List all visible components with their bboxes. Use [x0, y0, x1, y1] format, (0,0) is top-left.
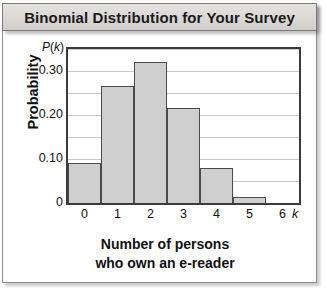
y-tick-label-0.10: 0.10	[30, 151, 63, 165]
y-tick-label-0: 0	[30, 195, 63, 209]
y-symbol-p: P	[42, 40, 50, 54]
bar-k-0	[68, 163, 101, 203]
bar-k-4	[200, 168, 233, 203]
x-axis-variable-label: k	[292, 207, 298, 221]
y-axis-symbol-label: P(k)	[33, 40, 64, 54]
x-tick-label-5: 5	[240, 207, 260, 221]
y-tick-label-0.20: 0.20	[30, 107, 63, 121]
x-tick-label-1: 1	[108, 207, 128, 221]
x-tick-label-4: 4	[207, 207, 227, 221]
y-symbol-paren-close: )	[60, 40, 64, 54]
x-axis-title: Number of persons who own an e-reader	[40, 235, 290, 273]
title-banner: Binomial Distribution for Your Survey	[2, 3, 317, 31]
x-tick-label-6: 6	[273, 207, 293, 221]
bar-k-3	[167, 108, 200, 203]
plot-area	[66, 47, 301, 205]
y-tick-label-0.30: 0.30	[30, 63, 63, 77]
binomial-distribution-figure: Binomial Distribution for Your Survey Pr…	[0, 0, 327, 291]
chart-title: Binomial Distribution for Your Survey	[24, 9, 295, 26]
bar-k-5	[233, 197, 266, 203]
x-axis-title-line-1: Number of persons	[40, 235, 290, 254]
x-tick-label-0: 0	[75, 207, 95, 221]
y-axis-title: Probability	[25, 12, 41, 172]
bar-k-2	[134, 62, 167, 203]
bar-k-1	[101, 86, 134, 203]
x-axis-title-line-2: who own an e-reader	[40, 254, 290, 273]
x-tick-label-2: 2	[141, 207, 161, 221]
bar-group	[68, 49, 299, 203]
x-tick-label-3: 3	[174, 207, 194, 221]
